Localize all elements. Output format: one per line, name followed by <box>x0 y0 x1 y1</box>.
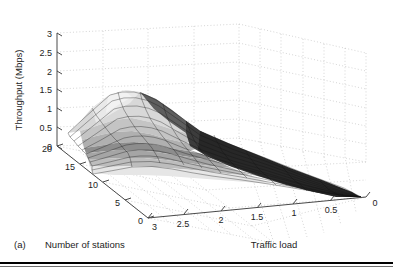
footer-rule <box>0 262 393 264</box>
x-tick-label: 0 <box>372 198 377 208</box>
y-tick-label: 0 <box>138 216 143 226</box>
figure-panel: 3 2.5 2 1.5 1 0.5 0 Throughput (Mbps) 20… <box>0 0 393 270</box>
panel-caption: (a) <box>14 239 26 250</box>
x-axis: 3 2.5 2 1.5 1 0.5 0 Traffic load <box>148 192 378 250</box>
y-tick-label: 20 <box>42 144 52 154</box>
x-axis-title: Traffic load <box>251 239 297 250</box>
x-tick-label: 2 <box>218 215 223 225</box>
footer-rule-secondary <box>0 266 393 267</box>
z-axis-title: Throughput (Mbps) <box>13 50 24 131</box>
x-tick-label: 2.5 <box>177 219 190 229</box>
x-tick-label: 0.5 <box>325 205 338 215</box>
y-tick-label: 5 <box>115 198 120 208</box>
z-tick-label: 2.5 <box>39 48 52 58</box>
z-tick-label: 1 <box>47 104 52 114</box>
x-tick-label: 1 <box>291 208 296 218</box>
y-tick-label: 15 <box>65 162 75 172</box>
x-tick-label: 3 <box>152 222 157 232</box>
surface-mesh <box>68 90 361 197</box>
x-tick-label: 1.5 <box>251 212 264 222</box>
z-tick-label: 0.5 <box>39 123 52 133</box>
z-tick-label: 3 <box>47 29 52 39</box>
surface-plot-3d: 3 2.5 2 1.5 1 0.5 0 Throughput (Mbps) 20… <box>0 0 393 270</box>
y-axis-title: Number of stations <box>45 239 125 250</box>
y-tick-label: 10 <box>88 180 98 190</box>
z-tick-label: 2 <box>47 67 52 77</box>
z-axis: 3 2.5 2 1.5 1 0.5 0 Throughput (Mbps) <box>13 29 62 152</box>
z-tick-label: 1.5 <box>39 85 52 95</box>
